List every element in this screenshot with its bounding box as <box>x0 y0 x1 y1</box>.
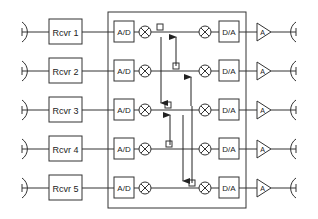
signal-chain-row: Rcvr 1A/DD/AA <box>22 19 296 44</box>
amplifier-label: A <box>260 107 265 114</box>
amplifier-label: A <box>260 68 265 75</box>
dac-label: D/A <box>222 145 236 154</box>
adc-label: A/D <box>117 184 131 193</box>
receiver-label: Rcvr 2 <box>52 67 78 77</box>
adc-label: A/D <box>117 28 131 37</box>
signal-chain-row: Rcvr 3A/DD/AA <box>22 97 296 122</box>
adc-label: A/D <box>117 145 131 154</box>
dac-label: D/A <box>222 67 236 76</box>
adc-label: A/D <box>117 106 131 115</box>
switch-node <box>166 141 172 147</box>
receiver-label: Rcvr 5 <box>52 184 78 194</box>
diagram-canvas: Rcvr 1A/DD/AARcvr 2A/DD/AARcvr 3A/DD/AAR… <box>0 0 318 219</box>
amplifier-label: A <box>260 29 265 36</box>
dac-label: D/A <box>222 184 236 193</box>
receiver-label: Rcvr 1 <box>52 28 78 38</box>
switch-node <box>157 24 163 30</box>
signal-chain-row: Rcvr 4A/DD/AA <box>22 136 296 161</box>
adc-label: A/D <box>117 67 131 76</box>
signal-chain-row: Rcvr 2A/DD/AA <box>22 58 296 83</box>
dac-label: D/A <box>222 28 236 37</box>
amplifier-label: A <box>260 185 265 192</box>
switch-node <box>165 102 171 108</box>
block-diagram: Rcvr 1A/DD/AARcvr 2A/DD/AARcvr 3A/DD/AAR… <box>0 0 318 219</box>
dac-label: D/A <box>222 106 236 115</box>
receiver-label: Rcvr 3 <box>52 106 78 116</box>
receiver-label: Rcvr 4 <box>52 145 78 155</box>
signal-chain-row: Rcvr 5A/DD/AA <box>22 175 296 200</box>
amplifier-label: A <box>260 146 265 153</box>
